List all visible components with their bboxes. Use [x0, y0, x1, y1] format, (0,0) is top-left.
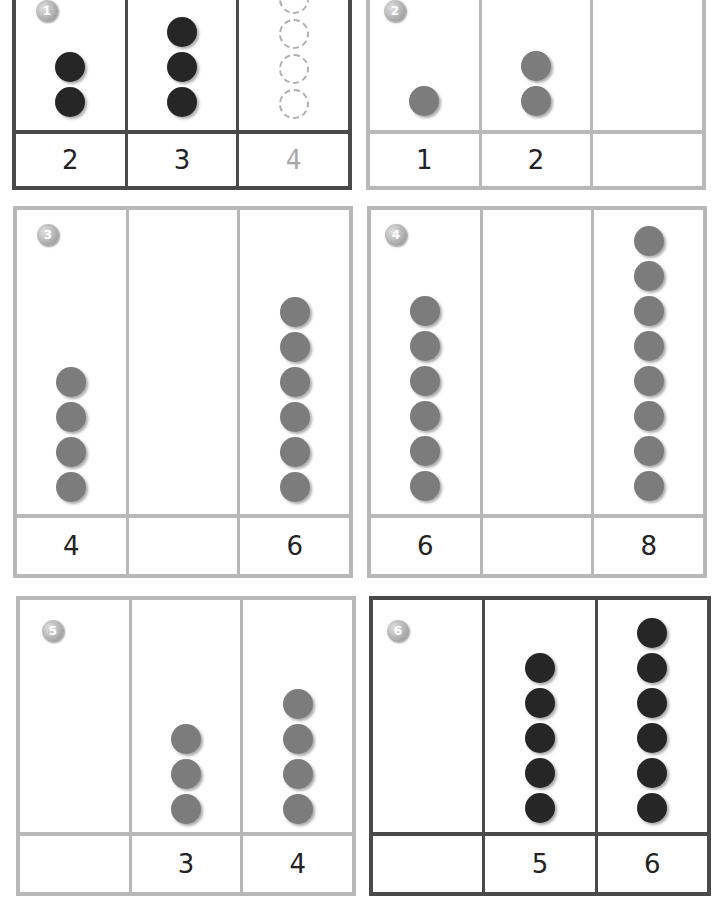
dashed-dot-outline: [279, 0, 309, 14]
count-label: 1: [370, 134, 479, 186]
dot-stack: [409, 86, 439, 121]
counter-dot: [409, 86, 439, 116]
counter-dot: [55, 87, 85, 117]
counter-dot: [637, 723, 667, 753]
column-2: [479, 0, 591, 134]
column-2[interactable]: [126, 210, 238, 518]
answer-box[interactable]: [126, 518, 238, 574]
puzzle-5: 5 3 4: [16, 596, 356, 896]
puzzle-number-badge: 6: [387, 620, 409, 642]
count-label: 5: [482, 836, 594, 892]
dot-stack: [525, 653, 555, 828]
column-1[interactable]: 5: [20, 600, 129, 840]
counter-dot: [280, 367, 310, 397]
counter-dot: [167, 87, 197, 117]
column-1[interactable]: 6: [373, 600, 482, 840]
counter-dot: [280, 297, 310, 327]
counter-dot: [634, 436, 664, 466]
puzzle-number-badge: 3: [37, 224, 59, 246]
column-1: 4: [371, 210, 480, 518]
dashed-dot-outline: [279, 19, 309, 49]
counter-dot: [171, 759, 201, 789]
puzzle-4: 4 6 8: [367, 206, 707, 578]
puzzle-number-badge: 5: [42, 620, 64, 642]
counter-dot: [634, 331, 664, 361]
counter-dot: [521, 86, 551, 116]
counter-dot: [634, 296, 664, 326]
count-label: 6: [237, 518, 349, 574]
counter-dot: [56, 437, 86, 467]
count-label: 3: [125, 134, 237, 186]
counter-dot: [283, 759, 313, 789]
answer-box[interactable]: [373, 836, 482, 892]
dot-stack: [521, 51, 551, 121]
counter-dot: [280, 437, 310, 467]
count-label: 6: [595, 836, 707, 892]
column-3: [237, 210, 349, 518]
column-1: 1: [16, 0, 125, 134]
dot-stack: [55, 52, 85, 122]
counter-dot: [637, 618, 667, 648]
column-2[interactable]: [480, 210, 592, 518]
counter-dot: [167, 52, 197, 82]
column-3: [240, 600, 352, 840]
answer-box[interactable]: [20, 836, 129, 892]
counter-dot: [283, 689, 313, 719]
counter-dot: [410, 436, 440, 466]
column-2: [125, 0, 237, 134]
counter-dot: [634, 366, 664, 396]
counter-dot: [410, 296, 440, 326]
counter-dot: [634, 226, 664, 256]
dashed-dot-outline: [279, 89, 309, 119]
puzzle-1: 1 2 3 4: [12, 0, 352, 190]
count-label: 2: [16, 134, 125, 186]
counter-dot: [525, 723, 555, 753]
dot-stack: [171, 724, 201, 829]
dot-stack: [410, 296, 440, 506]
count-label: 4: [17, 518, 126, 574]
counter-dot: [280, 472, 310, 502]
counter-dot: [167, 17, 197, 47]
count-label: 6: [371, 518, 480, 574]
column-3[interactable]: [236, 0, 348, 134]
column-3: [591, 210, 703, 518]
counter-dot: [634, 261, 664, 291]
puzzle-6: 6 5 6: [369, 596, 711, 896]
column-2: [482, 600, 594, 840]
dot-stack: [283, 689, 313, 829]
column-3: [595, 600, 707, 840]
puzzle-number-badge: 1: [36, 0, 58, 22]
counter-dot: [56, 367, 86, 397]
puzzle-3: 3 4 6: [13, 206, 353, 578]
column-1: 2: [370, 0, 479, 134]
counter-dot: [56, 472, 86, 502]
column-1: 3: [17, 210, 126, 518]
counter-dot: [171, 724, 201, 754]
count-label: 4: [240, 836, 352, 892]
counter-dot: [410, 471, 440, 501]
puzzle-2: 2 1 2: [366, 0, 706, 190]
puzzle-number-badge: 4: [385, 224, 407, 246]
counter-dot: [410, 366, 440, 396]
counter-dot: [521, 51, 551, 81]
counter-dot: [637, 688, 667, 718]
dot-stack: [280, 297, 310, 507]
counter-dot: [634, 471, 664, 501]
counter-dot: [280, 402, 310, 432]
column-3[interactable]: [590, 0, 702, 134]
counter-dot: [410, 401, 440, 431]
counter-dot: [637, 758, 667, 788]
counter-dot: [171, 794, 201, 824]
counter-dot: [283, 794, 313, 824]
counter-dot: [525, 758, 555, 788]
counter-dot: [56, 402, 86, 432]
traced-count-label[interactable]: 4: [236, 134, 348, 186]
count-label: 3: [129, 836, 241, 892]
answer-box[interactable]: [590, 134, 702, 186]
counter-dot: [637, 653, 667, 683]
puzzle-number-badge: 2: [384, 0, 406, 22]
counter-dot: [283, 724, 313, 754]
counter-dot: [525, 793, 555, 823]
answer-box[interactable]: [480, 518, 592, 574]
dashed-dot-outline: [279, 54, 309, 84]
